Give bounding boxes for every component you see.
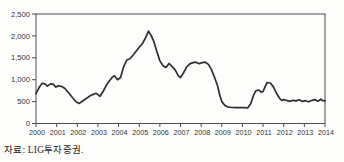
- x-axis-tick-label: 2010: [235, 128, 251, 137]
- x-axis-tick-label: 2007: [174, 128, 190, 137]
- x-axis-tick-label: 2004: [112, 128, 128, 137]
- series-line: [36, 31, 325, 108]
- y-axis-tick-label: 2,500: [11, 10, 30, 19]
- y-axis-tick-label: 1,000: [11, 75, 30, 84]
- x-axis-tick-label: 2011: [256, 128, 271, 137]
- x-axis-tick-label: 2001: [50, 128, 66, 137]
- x-axis-tick-label: 2013: [297, 128, 313, 137]
- figure: 05001,0001,5002,0002,5002000200120022003…: [0, 0, 344, 162]
- plot-frame: [36, 14, 325, 124]
- y-axis-tick-label: 2,000: [11, 32, 30, 41]
- x-axis-tick-label: 2002: [70, 128, 86, 137]
- source-note: 자료: LIG투자증권.: [4, 142, 84, 156]
- x-axis-tick-label: 2006: [153, 128, 169, 137]
- x-axis-tick-label: 2009: [215, 128, 231, 137]
- x-axis-tick-label: 2008: [194, 128, 210, 137]
- y-axis-tick-label: 0: [26, 119, 30, 128]
- x-axis-tick-label: 2005: [132, 128, 148, 137]
- y-axis-tick-label: 1,500: [11, 53, 30, 62]
- x-axis-tick-label: 2014: [318, 128, 334, 137]
- line-chart-svg: 05001,0001,5002,0002,5002000200120022003…: [0, 0, 344, 146]
- x-axis-tick-label: 2012: [277, 128, 293, 137]
- y-axis-tick-label: 500: [17, 97, 30, 106]
- x-axis-tick-label: 2000: [29, 128, 45, 137]
- x-axis-tick-label: 2003: [91, 128, 107, 137]
